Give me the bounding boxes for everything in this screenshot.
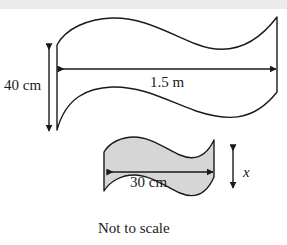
label-length-large: 1.5 m — [150, 75, 184, 90]
label-height-small: x — [243, 165, 250, 180]
label-height-large: 40 cm — [4, 78, 41, 93]
label-length-small: 30 cm — [130, 175, 167, 190]
figure-caption: Not to scale — [98, 221, 170, 236]
figure-root: 40 cm 1.5 m 30 cm x Not to scale — [0, 0, 287, 245]
geometry-diagram — [0, 0, 287, 245]
